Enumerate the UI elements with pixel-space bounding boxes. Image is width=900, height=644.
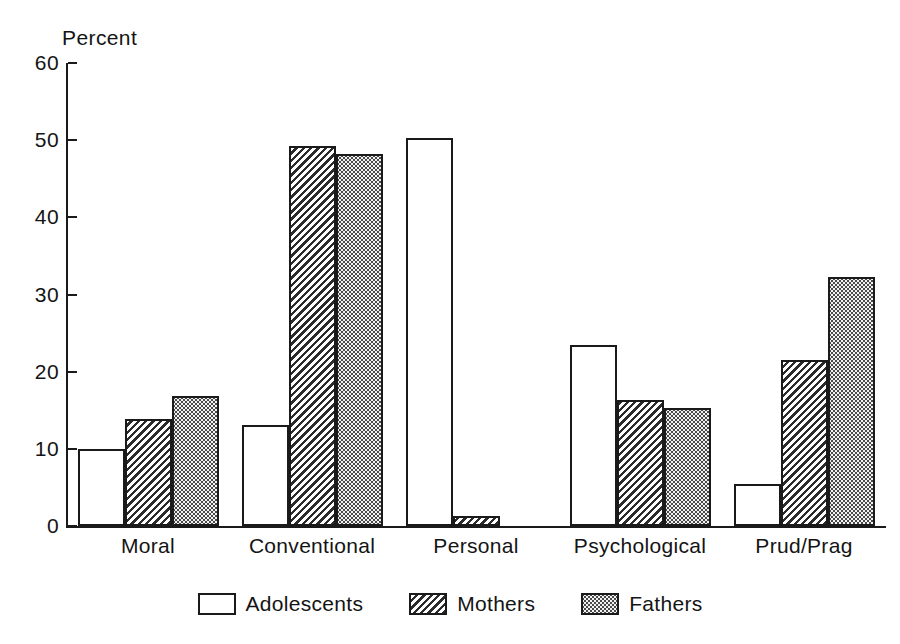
bar-moral-mothers (125, 419, 172, 526)
category-label-conventional: Conventional (249, 534, 375, 558)
bar-psychological-fathers (664, 408, 711, 526)
y-tick-label-0: 0 (47, 514, 59, 538)
plot-area: 0102030405060 (66, 63, 886, 528)
bars-layer (66, 63, 886, 528)
y-tick-label-10: 10 (35, 437, 59, 461)
bar-psychological-adolescents (570, 345, 617, 526)
bar-prud-prag-fathers (828, 277, 875, 526)
y-tick-label-30: 30 (35, 283, 59, 307)
category-label-personal: Personal (433, 534, 518, 558)
legend-swatch-mothers (409, 593, 447, 615)
category-label-prud-prag: Prud/Prag (755, 534, 852, 558)
bar-conventional-mothers (289, 146, 336, 526)
legend-label-adolescents: Adolescents (246, 592, 364, 616)
legend-swatch-adolescents (198, 593, 236, 615)
bar-conventional-adolescents (242, 425, 289, 526)
y-axis-title: Percent (62, 26, 137, 50)
bar-prud-prag-mothers (781, 360, 828, 526)
bar-chart: Percent 0102030405060 MoralConventionalP… (0, 0, 900, 644)
legend-label-fathers: Fathers (629, 592, 702, 616)
bar-psychological-mothers (617, 400, 664, 526)
legend-item-adolescents: Adolescents (198, 592, 364, 616)
chart-legend: AdolescentsMothersFathers (0, 592, 900, 616)
legend-label-mothers: Mothers (457, 592, 535, 616)
bar-personal-adolescents (406, 138, 453, 526)
y-tick-label-20: 20 (35, 360, 59, 384)
legend-swatch-fathers (581, 593, 619, 615)
bar-personal-mothers (453, 516, 500, 526)
bar-conventional-fathers (336, 154, 383, 526)
bar-moral-adolescents (78, 449, 125, 526)
legend-item-mothers: Mothers (409, 592, 535, 616)
bar-moral-fathers (172, 396, 219, 526)
category-label-psychological: Psychological (574, 534, 706, 558)
y-tick-label-40: 40 (35, 205, 59, 229)
legend-item-fathers: Fathers (581, 592, 702, 616)
y-tick-label-50: 50 (35, 128, 59, 152)
category-label-moral: Moral (121, 534, 175, 558)
bar-prud-prag-adolescents (734, 484, 781, 526)
y-tick-label-60: 60 (35, 51, 59, 75)
